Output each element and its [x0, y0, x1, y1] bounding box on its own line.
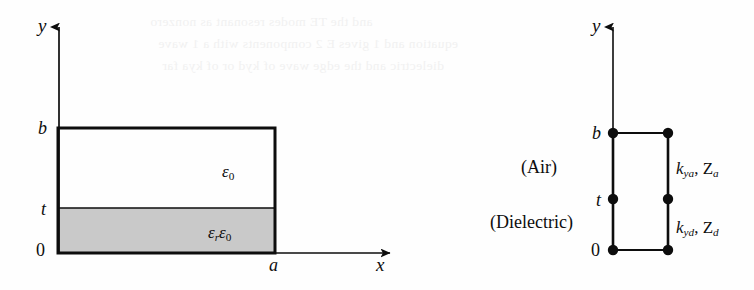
left-x-axis-label: x — [376, 255, 384, 274]
right-diagram-group — [608, 27, 673, 255]
terminal-dot — [608, 128, 618, 138]
figure-linework — [0, 0, 754, 290]
epsilon-subscript: 0 — [226, 231, 232, 243]
dielectric-section-label: (Dielectric) — [490, 213, 573, 231]
air-section-label: (Air) — [521, 158, 557, 176]
left-diagram-group — [58, 27, 390, 253]
right-tick-b: b — [592, 124, 601, 142]
air-permittivity-label: ε0 — [222, 163, 234, 182]
z-symbol: Z — [703, 159, 713, 178]
terminal-dot — [608, 194, 618, 204]
parameter-separator: , — [694, 218, 703, 237]
terminal-dot — [663, 245, 673, 255]
terminal-dot — [663, 128, 673, 138]
dielectric-permittivity-label: εrε0 — [208, 224, 231, 243]
left-tick-a: a — [269, 256, 278, 274]
figure-canvas: and the TE modes resonant as nonzero equ… — [0, 0, 754, 290]
epsilon-r-symbol: ε — [208, 223, 215, 242]
terminal-dot — [663, 194, 673, 204]
z-symbol: Z — [703, 218, 713, 237]
terminal-dot — [608, 245, 618, 255]
z-subscript: d — [713, 226, 719, 238]
k-symbol: k — [676, 159, 684, 178]
k-symbol: k — [676, 218, 684, 237]
k-subscript: ya — [684, 167, 695, 179]
left-tick-0: 0 — [36, 241, 45, 259]
dielectric-region-fill — [58, 208, 275, 253]
dielectric-line-parameters: kyd, Zd — [676, 219, 719, 238]
left-tick-t: t — [41, 200, 46, 218]
left-y-axis-label: y — [38, 16, 46, 35]
right-tick-0: 0 — [591, 241, 600, 259]
parameter-separator: , — [694, 159, 703, 178]
epsilon-subscript: 0 — [229, 170, 235, 182]
left-tick-b: b — [38, 119, 47, 137]
air-line-parameters: kya, Za — [676, 160, 719, 179]
epsilon-symbol: ε — [219, 223, 226, 242]
right-tick-t: t — [596, 191, 601, 209]
z-subscript: a — [713, 167, 719, 179]
right-y-axis-label: y — [592, 16, 600, 35]
epsilon-symbol: ε — [222, 162, 229, 181]
k-subscript: yd — [684, 226, 695, 238]
